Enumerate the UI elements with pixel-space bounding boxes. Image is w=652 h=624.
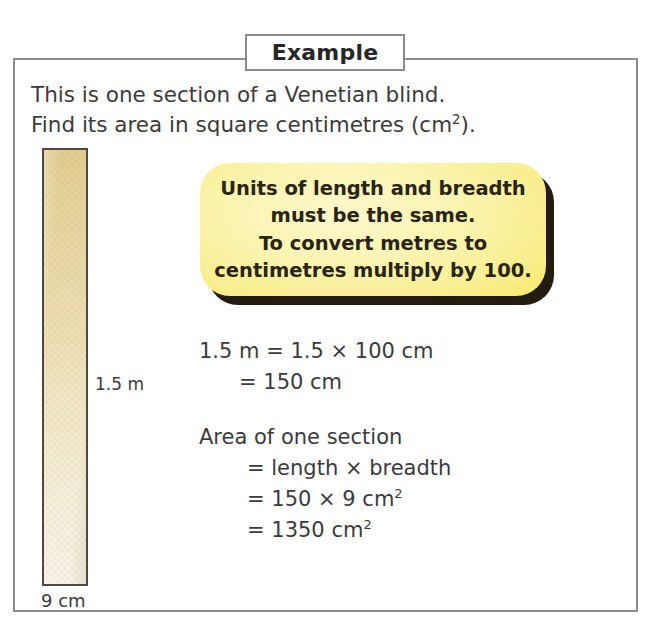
intro-line-2: Find its area in square centimetres (cm2… [31, 110, 551, 140]
hint-callout-line-4: centimetres multiply by 100. [214, 257, 531, 285]
area-line-3: = 1350 cm2 [199, 515, 451, 546]
solution-spacer [199, 398, 451, 422]
hint-callout-line-3: To convert metres to [259, 230, 487, 258]
example-title-label: Example [272, 42, 379, 64]
intro-line-2-prefix: Find its area in square centimetres (cm [31, 112, 452, 137]
area-line-3-prefix: = 1350 cm [247, 518, 363, 542]
area-line-1: = length × breadth [199, 453, 451, 484]
blind-width-label: 9 cm [41, 590, 86, 611]
area-heading: Area of one section [199, 422, 451, 453]
intro-line-2-superscript: 2 [452, 112, 460, 127]
solution-block: 1.5 m = 1.5 × 100 cm = 150 cm Area of on… [199, 336, 451, 546]
hint-callout-box: Units of length and breadth must be the … [200, 163, 546, 296]
blind-height-label: 1.5 m [95, 374, 144, 394]
conversion-line-1: 1.5 m = 1.5 × 100 cm [199, 336, 451, 367]
conversion-line-2: = 150 cm [199, 367, 451, 398]
intro-line-1: This is one section of a Venetian blind. [31, 80, 551, 110]
hint-callout-line-2: must be the same. [271, 202, 476, 230]
area-line-2-prefix: = 150 × 9 cm [247, 487, 394, 511]
example-title-box: Example [245, 34, 405, 71]
area-line-2: = 150 × 9 cm2 [199, 484, 451, 515]
intro-line-2-suffix: ). [461, 112, 476, 137]
area-line-3-superscript: 2 [363, 517, 371, 532]
area-line-2-superscript: 2 [394, 486, 402, 501]
venetian-blind-strip [42, 148, 88, 586]
hint-callout: Units of length and breadth must be the … [200, 163, 546, 296]
hint-callout-line-1: Units of length and breadth [220, 175, 525, 203]
intro-text-block: This is one section of a Venetian blind.… [31, 80, 551, 140]
